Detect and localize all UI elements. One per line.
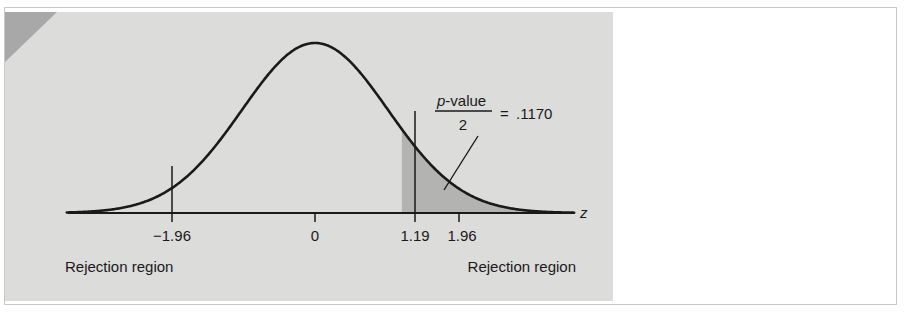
tick-label-196: 1.96 [447,227,476,244]
pvalue-result-value: .1170 [516,105,552,122]
figure-root: z −1.96 0 1.19 1.96 Rejection region Rej… [0,0,906,313]
pvalue-value-word: -value [445,92,486,109]
shaded-tail-path [402,129,574,213]
shaded-tail-region [402,129,574,213]
p-value-callout: p-value 2 = .1170 [435,92,552,190]
normal-distribution-chart: z −1.96 0 1.19 1.96 Rejection region Rej… [0,0,906,313]
rejection-region-label-left: Rejection region [65,258,173,275]
rejection-region-label-right: Rejection region [468,258,576,275]
pvalue-equals-sign: = [500,105,509,122]
pvalue-numerator-text: p-value [436,92,486,109]
normal-curve [67,43,574,213]
tick-label-119: 1.19 [400,227,429,244]
pvalue-p-italic: p [436,92,445,109]
tick-label-zero: 0 [311,227,319,244]
tick-label-neg196: −1.96 [153,227,191,244]
pvalue-denominator-text: 2 [459,116,467,133]
callout-leader-line [444,136,478,190]
x-axis-label: z [579,204,588,221]
